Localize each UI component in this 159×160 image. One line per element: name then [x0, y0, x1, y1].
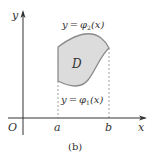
region-label: D: [71, 57, 82, 71]
figure-caption: (b): [68, 141, 82, 152]
y-axis-label: y: [11, 9, 19, 22]
upper-curve-label: y=φ2(x): [61, 19, 104, 31]
tick-label-b: b: [105, 121, 112, 134]
region-d: [58, 34, 109, 86]
x-axis-label: x: [138, 121, 145, 134]
lower-curve-label: y=φ1(x): [60, 94, 103, 106]
tick-label-a: a: [54, 121, 61, 134]
origin-label: O: [8, 121, 17, 134]
diagram-canvas: y x O a b D y=φ2(x) y=φ1(x) (b): [0, 0, 159, 160]
